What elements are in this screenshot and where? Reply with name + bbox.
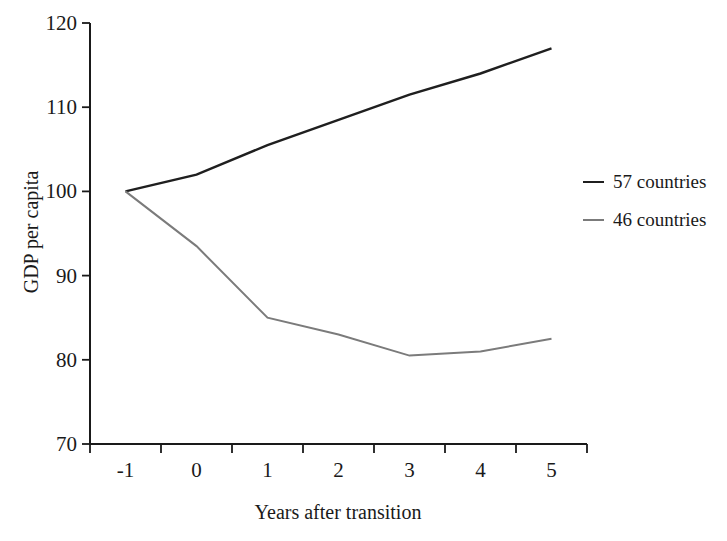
legend-item-57-countries: 57 countries — [583, 170, 706, 194]
x-tick-label: 4 — [475, 458, 486, 482]
x-tick-label: 1 — [262, 458, 273, 482]
y-tick-label: 100 — [46, 179, 78, 203]
x-tick-label: 2 — [333, 458, 344, 482]
legend: 57 countries 46 countries — [583, 170, 706, 246]
legend-line-swatch-46-countries — [583, 219, 604, 221]
x-tick-label: -1 — [117, 458, 135, 482]
y-tick-label: 120 — [46, 11, 78, 35]
legend-line-swatch-57-countries — [583, 181, 604, 183]
gdp-transition-line-chart: 708090100110120-1012345 GDP per capita Y… — [0, 0, 727, 541]
y-tick-label: 110 — [46, 95, 77, 119]
y-tick-label: 70 — [56, 432, 77, 456]
y-axis-title: GDP per capita — [20, 171, 43, 294]
x-tick-label: 5 — [546, 458, 557, 482]
series-line-46-countries — [126, 191, 552, 355]
legend-label-57-countries: 57 countries — [613, 171, 706, 193]
x-tick-label: 0 — [191, 458, 202, 482]
legend-label-46-countries: 46 countries — [613, 209, 706, 231]
y-tick-label: 80 — [56, 348, 77, 372]
chart-plot-area: 708090100110120-1012345 — [0, 0, 727, 541]
y-tick-label: 90 — [56, 264, 77, 288]
legend-item-46-countries: 46 countries — [583, 208, 706, 232]
x-tick-label: 3 — [404, 458, 415, 482]
x-axis-title: Years after transition — [255, 501, 422, 524]
series-line-57-countries — [126, 48, 552, 191]
